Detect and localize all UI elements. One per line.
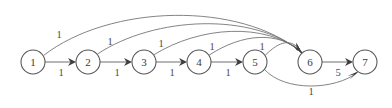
node-6[interactable]: 6 bbox=[298, 50, 322, 74]
node-4[interactable]: 4 bbox=[187, 50, 211, 74]
edge-weight-5-7: 1 bbox=[308, 86, 313, 97]
edge-5-to-6-arrowhead bbox=[294, 45, 303, 54]
edge-weight-1-2: 1 bbox=[58, 67, 63, 78]
edge-weight-3-4: 1 bbox=[169, 67, 174, 78]
edge-2-to-6-path bbox=[98, 24, 302, 54]
edge-weight-4-5: 1 bbox=[225, 67, 230, 78]
graph-figure: 1 2 3 4 5 6 7 bbox=[0, 0, 392, 108]
node-4-label: 4 bbox=[196, 56, 202, 68]
node-2[interactable]: 2 bbox=[76, 50, 100, 74]
edge-weight-4-6: 1 bbox=[209, 41, 214, 52]
edge-weight-1-6: 1 bbox=[56, 29, 61, 40]
edge-1-to-2 bbox=[45, 58, 76, 66]
node-3[interactable]: 3 bbox=[132, 50, 156, 74]
edge-weight-6-7: 5 bbox=[335, 67, 340, 78]
edge-3-to-6 bbox=[154, 31, 303, 55]
edge-weight-5-6: 1 bbox=[259, 41, 264, 52]
node-6-label: 6 bbox=[307, 56, 313, 68]
node-3-label: 3 bbox=[141, 56, 147, 68]
edge-6-to-7 bbox=[322, 58, 353, 66]
edge-weight-3-6: 1 bbox=[158, 38, 163, 49]
node-1[interactable]: 1 bbox=[21, 50, 45, 74]
edge-3-to-4 bbox=[156, 58, 187, 66]
node-5-label: 5 bbox=[252, 56, 258, 68]
edge-3-to-6-path bbox=[154, 31, 302, 55]
edge-weight-2-6: 1 bbox=[107, 36, 112, 47]
node-7[interactable]: 7 bbox=[353, 50, 377, 74]
edge-weight-2-3: 1 bbox=[114, 67, 119, 78]
node-7-label: 7 bbox=[362, 56, 368, 68]
node-1-label: 1 bbox=[30, 56, 36, 68]
node-2-label: 2 bbox=[85, 56, 91, 68]
node-5[interactable]: 5 bbox=[243, 50, 267, 74]
edge-5-to-6-path bbox=[264, 43, 302, 57]
edge-4-to-5 bbox=[211, 58, 243, 66]
graph-canvas: 1 2 3 4 5 6 7 bbox=[0, 0, 392, 108]
edge-2-to-3 bbox=[100, 58, 132, 66]
